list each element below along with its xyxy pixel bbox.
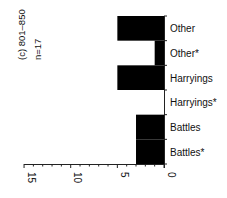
axis-tick-label: 5 xyxy=(119,172,130,178)
bar-other xyxy=(117,16,164,41)
category-label: Battles* xyxy=(170,147,205,158)
axis-tick-label: 10 xyxy=(72,172,83,184)
category-label: Battles xyxy=(170,122,201,133)
sample-size-label: n=17 xyxy=(32,39,43,60)
bar-harryings xyxy=(117,65,164,90)
category-label: Other* xyxy=(170,48,199,59)
chart-title: (c) 801–850 xyxy=(16,9,27,60)
category-label: Harryings xyxy=(170,73,213,84)
axis-tick-label: 15 xyxy=(26,172,37,184)
chart-canvas: OtherOther*HarryingsHarryings*BattlesBat… xyxy=(0,0,227,198)
bar-battles xyxy=(136,115,164,140)
category-label: Harryings* xyxy=(170,97,217,108)
bar-chart: OtherOther*HarryingsHarryings*BattlesBat… xyxy=(0,0,227,198)
axis-tick-label: 0 xyxy=(166,172,177,178)
bar-battles-star xyxy=(136,139,164,164)
category-label: Other xyxy=(170,23,196,34)
bar-other-star xyxy=(155,41,164,66)
